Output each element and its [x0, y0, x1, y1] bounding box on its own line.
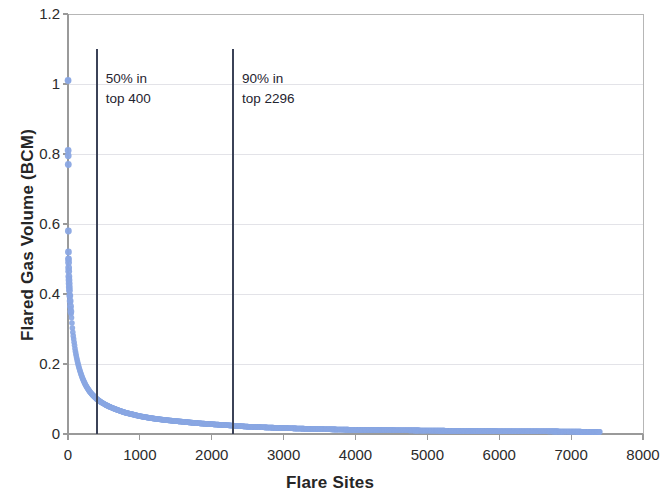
chart-container: Flared Gas Volume (BCM) Flare Sites 00.2…: [0, 0, 660, 499]
x-tick-label-4: 4000: [321, 446, 391, 463]
x-tick-label-2: 2000: [177, 446, 247, 463]
x-tick-label-3: 3000: [249, 446, 319, 463]
y-tick-label-3: 0.6: [16, 215, 60, 232]
x-tick-label-5: 5000: [392, 446, 462, 463]
x-tick-label-0: 0: [33, 446, 103, 463]
y-tick-label-5: 1: [16, 75, 60, 92]
x-tick-label-8: 8000: [608, 446, 660, 463]
x-axis-title: Flare Sites: [0, 473, 660, 493]
annotation-90-percent: 90% in top 2296: [242, 69, 295, 108]
x-tick-label-7: 7000: [536, 446, 606, 463]
annotation-90-percent-line2: top 2296: [242, 89, 295, 109]
y-tick-label-4: 0.8: [16, 145, 60, 162]
annotation-50-percent: 50% in top 400: [106, 69, 151, 108]
y-tick-label-6: 1.2: [16, 5, 60, 22]
y-tick-label-2: 0.4: [16, 285, 60, 302]
y-tick-label-1: 0.2: [16, 355, 60, 372]
chart-plot-area: [0, 0, 660, 499]
annotation-90-percent-line1: 90% in: [242, 69, 295, 89]
y-tick-label-0: 0: [16, 425, 60, 442]
annotation-50-percent-line2: top 400: [106, 89, 151, 109]
x-tick-label-6: 6000: [464, 446, 534, 463]
x-tick-label-1: 1000: [105, 446, 175, 463]
annotation-50-percent-line1: 50% in: [106, 69, 151, 89]
